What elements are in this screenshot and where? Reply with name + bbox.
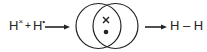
orbital-circle-left [76, 4, 121, 49]
reaction-arrow-icon-2 [145, 25, 167, 30]
shared-electron-cross-icon [103, 17, 109, 23]
shared-electron-dot-icon [104, 30, 109, 35]
orbital-circle-right [93, 4, 138, 49]
product-label: H – H [170, 18, 203, 34]
reaction-arrow-icon-1 [45, 25, 70, 30]
